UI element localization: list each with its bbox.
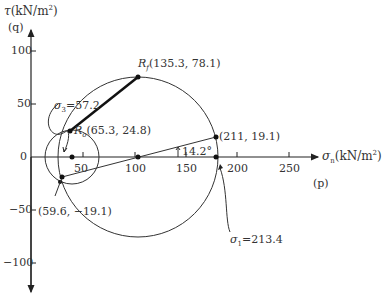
x-axis-sublabel: (p) [313,178,329,189]
y-tick-neg50: −50 [9,204,32,215]
y-axis-sublabel: (q) [8,22,24,33]
angle-label: 14.2° [182,146,212,157]
y-tick-0: 0 [20,151,27,162]
rf-label: Rf(135.3, 78.1) [138,58,220,72]
x-axis-label: σn(kN/m2) [322,150,382,165]
y-axis-label: τ(kN/m2) [4,5,58,17]
x-tick-200: 200 [227,163,248,174]
x-tick-50: 50 [74,163,88,174]
x-tick-100: 100 [125,163,146,174]
x-tick-150: 150 [176,163,197,174]
point-211-label: (211, 19.1) [219,131,280,142]
sigma1-label: σ1=213.4 [230,234,283,248]
ro-label: Ro(65.3, 24.8) [74,125,151,139]
y-tick-100: 100 [11,45,32,56]
sigma1-leader [220,168,230,232]
point-59-label: (59.6, −19.1) [38,206,112,217]
sigma3-label: σ3=57.2 [54,100,100,114]
x-tick-250: 250 [279,163,300,174]
y-tick-neg100: −100 [3,257,33,268]
y-tick-50: 50 [17,98,31,109]
